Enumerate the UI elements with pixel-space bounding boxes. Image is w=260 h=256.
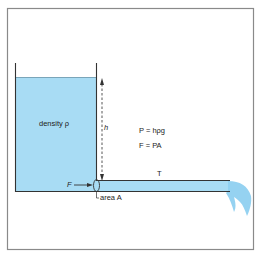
force-label: F xyxy=(67,181,72,189)
water-column xyxy=(16,77,97,191)
tap-label: T xyxy=(157,170,162,178)
area-label: area A xyxy=(100,194,122,202)
density-label: density ρ xyxy=(39,120,69,128)
pipe-water xyxy=(97,181,230,191)
pressure-equation: P = hρg xyxy=(139,127,165,135)
height-label: h xyxy=(104,124,108,132)
hydrostatic-diagram xyxy=(0,0,260,256)
force-equation: F = PA xyxy=(139,142,162,150)
